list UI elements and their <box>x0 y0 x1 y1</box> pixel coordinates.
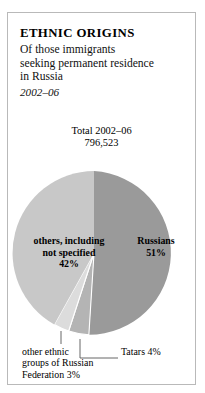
pie-chart: Russians 51% others, including not speci… <box>8 13 195 384</box>
slice-label-others-line-2: not specified <box>21 247 117 259</box>
slice-label-other-ethnic-line-1: other ethnic <box>22 346 114 357</box>
slice-label-other-ethnic-line-3: Federation 3% <box>22 369 114 380</box>
slice-label-russians-pct: 51% <box>120 247 192 259</box>
slice-label-other-ethnic-line-2: groups of Russian <box>22 357 114 368</box>
infographic-page: ETHNIC ORIGINS Of those immigrants seeki… <box>0 0 205 393</box>
slice-label-other-ethnic-groups: other ethnic groups of Russian Federatio… <box>22 346 114 380</box>
content-frame: ETHNIC ORIGINS Of those immigrants seeki… <box>7 12 196 385</box>
slice-label-others-pct: 42% <box>21 258 117 270</box>
slice-label-others: others, including not specified 42% <box>21 235 117 270</box>
pie-chart-svg <box>8 13 195 384</box>
slice-label-russians: Russians 51% <box>120 235 192 258</box>
slice-label-others-line-1: others, including <box>21 235 117 247</box>
slice-label-russians-name: Russians <box>120 235 192 247</box>
slice-label-tatars: Tatars 4% <box>121 346 201 358</box>
